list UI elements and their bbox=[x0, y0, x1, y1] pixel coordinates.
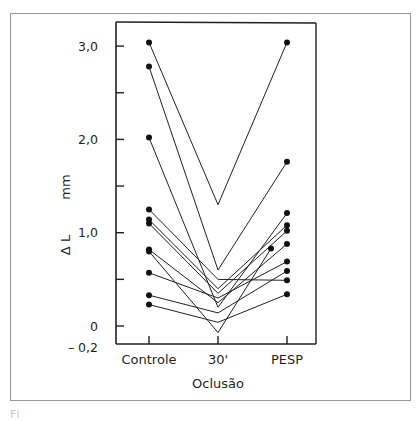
y-tick-label: 3,0 bbox=[78, 39, 98, 54]
data-point bbox=[146, 270, 152, 276]
x-axis-label: Oclusão bbox=[192, 376, 244, 391]
y-tick-label: 2,0 bbox=[78, 132, 98, 147]
data-point bbox=[284, 241, 290, 247]
data-point bbox=[146, 39, 152, 45]
data-point bbox=[284, 259, 290, 265]
subject-line bbox=[149, 223, 287, 293]
data-point bbox=[284, 222, 290, 228]
data-point bbox=[146, 302, 152, 308]
data-point bbox=[284, 228, 290, 234]
data-point bbox=[284, 268, 290, 274]
subject-lines bbox=[149, 42, 287, 332]
x-axis-ticks: Controle30'PESP bbox=[122, 336, 304, 367]
data-point bbox=[146, 292, 152, 298]
data-points bbox=[146, 39, 290, 307]
y-tick-label: 0 bbox=[90, 319, 98, 334]
y-axis-label: Δ L bbox=[58, 234, 73, 255]
data-point bbox=[146, 248, 152, 254]
subject-line bbox=[149, 67, 287, 270]
data-point bbox=[268, 246, 274, 252]
data-point bbox=[146, 64, 152, 70]
subject-line bbox=[149, 42, 287, 204]
y-tick-label: 1,0 bbox=[78, 225, 98, 240]
subject-line bbox=[149, 138, 287, 308]
data-point bbox=[284, 277, 290, 283]
data-point bbox=[146, 206, 152, 212]
data-point bbox=[146, 135, 152, 141]
figure-caption-fragment: Fi bbox=[10, 408, 21, 421]
data-point bbox=[284, 291, 290, 297]
data-point bbox=[284, 159, 290, 165]
data-point bbox=[284, 210, 290, 216]
y-axis-unit: mm bbox=[58, 174, 73, 199]
data-point bbox=[284, 39, 290, 45]
x-category-label: PESP bbox=[271, 352, 303, 367]
x-category-label: Controle bbox=[122, 352, 177, 367]
y-axis-ticks: 3,02,01,00 bbox=[78, 39, 124, 334]
data-point bbox=[146, 220, 152, 226]
y-min-label: – 0,2 bbox=[68, 340, 98, 355]
x-category-label: 30' bbox=[208, 352, 228, 367]
